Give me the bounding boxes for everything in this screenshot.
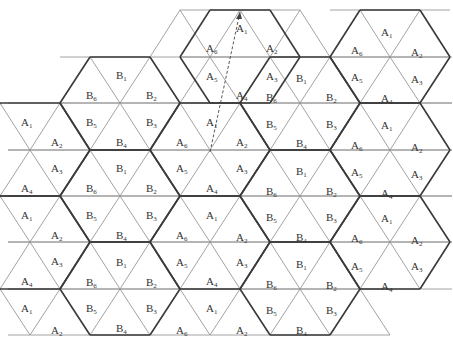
triangle-label: A4 [206,182,218,196]
grid-line [150,10,180,57]
triangle-label: B2 [326,279,337,293]
triangle-label: A1 [206,302,218,316]
grid-line [420,10,450,57]
triangle-label: A1 [381,119,393,133]
triangle-label: A6 [351,44,363,58]
triangle-label: A1 [381,26,393,40]
triangle-label: B5 [86,209,97,223]
triangle-label: B4 [296,137,307,151]
triangle-label: B6 [266,185,277,199]
triangle-label: B1 [296,165,307,179]
triangle-label: A6 [176,136,188,150]
triangle-label: B1 [116,69,127,83]
triangle-label: B4 [116,229,127,243]
triangle-label: B2 [326,91,337,105]
triangle-label: B5 [266,118,277,132]
triangle-label: B3 [326,118,337,132]
triangle-label: A4 [21,275,33,289]
triangle-label: A5 [206,70,218,84]
triangle-label: A5 [176,256,188,270]
triangle-label: A4 [381,187,393,201]
grid-line [420,150,450,196]
triangle-label: B2 [326,185,337,199]
triangle-label: A4 [21,182,33,196]
grid-line [420,196,450,242]
triangle-label: A3 [51,255,63,269]
triangle-label: A4 [381,92,393,106]
triangle-label: B3 [326,304,337,318]
triangle-label: A2 [51,136,63,150]
triangle-label: B6 [86,182,97,196]
triangle-label: B2 [146,89,157,103]
triangle-label: B6 [266,278,277,292]
triangle-label: A4 [206,275,218,289]
triangle-label: B3 [146,209,157,223]
triangle-label: A3 [266,70,278,84]
triangle-label: B3 [146,302,157,316]
grid-line [420,57,450,103]
triangle-label: A2 [411,234,423,248]
grid-line [300,10,330,57]
triangle-label: B4 [296,231,307,245]
triangle-label: A3 [236,256,248,270]
triangle-label: A1 [236,22,248,36]
triangle-label: B2 [146,182,157,196]
triangle-label: A6 [176,229,188,243]
grid-line [420,242,450,289]
tiling-svg: A1A6A2A5A3A4A1A6A2A5A3A4B1B6B2B5B3B4A1A6… [0,0,453,354]
hexagon-tiling-diagram: A1A6A2A5A3A4A1A6A2A5A3A4B1B6B2B5B3B4A1A6… [0,0,453,354]
triangle-label: A5 [176,162,188,176]
triangle-label: A5 [351,71,363,85]
triangle-label: A3 [51,162,63,176]
triangle-label: A2 [266,42,278,56]
triangle-label: A2 [236,324,248,338]
triangle-label: A3 [411,73,423,87]
triangle-label: B3 [146,116,157,130]
triangle-label: B4 [116,136,127,150]
triangle-label: B2 [146,276,157,290]
triangle-label: B4 [296,324,307,338]
triangle-label: A2 [236,136,248,150]
triangle-label: B5 [86,302,97,316]
triangle-label: B5 [86,116,97,130]
triangle-label: A3 [411,260,423,274]
triangle-label: A3 [411,168,423,182]
triangle-label: A2 [51,229,63,243]
grid-line [420,103,450,150]
triangle-label: A5 [351,166,363,180]
grid-line [360,289,390,335]
triangle-label: A1 [206,116,218,130]
triangle-label: B1 [296,72,307,86]
triangle-label: A2 [411,46,423,60]
triangle-label: A4 [236,89,248,103]
triangle-label: A3 [236,162,248,176]
triangle-label: B5 [266,211,277,225]
triangle-label: A6 [351,232,363,246]
triangle-label: A6 [206,42,218,56]
triangle-label: A6 [351,139,363,153]
triangle-label: A1 [381,212,393,226]
triangle-label: B4 [116,322,127,336]
triangle-label: A2 [51,324,63,338]
triangle-label: A2 [236,231,248,245]
triangle-label: A5 [351,260,363,274]
triangle-label: A4 [381,280,393,294]
triangle-label: A2 [411,141,423,155]
triangle-label: A1 [21,116,33,130]
triangle-label: A6 [176,324,188,338]
triangle-label: B3 [326,211,337,225]
triangle-label: A1 [21,209,33,223]
triangle-label: A1 [21,302,33,316]
triangle-label: B1 [116,256,127,270]
triangle-label: B1 [296,258,307,272]
triangle-label: B6 [86,276,97,290]
triangle-label: B1 [116,162,127,176]
triangle-label: A1 [206,209,218,223]
triangle-label: B6 [86,89,97,103]
triangle-label: B5 [266,304,277,318]
